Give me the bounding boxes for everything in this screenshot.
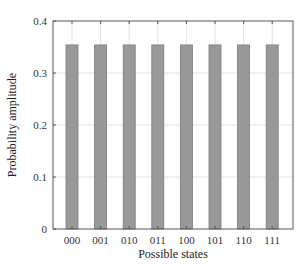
y-tick-label: 0.3 (33, 67, 47, 79)
x-tick-label: 000 (64, 234, 81, 246)
grid-lines (53, 21, 293, 229)
bar-011 (152, 45, 164, 229)
y-tick-label: 0.2 (33, 119, 47, 131)
bar-100 (180, 45, 192, 229)
y-tick-label: 0.1 (33, 171, 47, 183)
y-tick-label: 0.4 (33, 15, 47, 27)
x-tick-label: 101 (207, 234, 224, 246)
x-tick-label: 100 (178, 234, 195, 246)
bar-101 (209, 45, 221, 229)
bar-001 (95, 45, 107, 229)
x-tick-label: 010 (121, 234, 138, 246)
x-tick-label: 011 (150, 234, 166, 246)
bar-000 (66, 45, 78, 229)
bar-010 (123, 45, 135, 229)
x-tick-label: 001 (92, 234, 109, 246)
bar-110 (238, 45, 250, 229)
y-tick-label: 0 (42, 223, 48, 235)
x-axis-label: Possible states (138, 247, 208, 261)
bar-chart: 00.10.20.30.4 000001010011100101110111 P… (0, 0, 305, 269)
x-tick-label: 111 (264, 234, 280, 246)
y-axis-label: Probability amplitude (5, 73, 19, 177)
x-tick-label: 110 (236, 234, 253, 246)
bar-111 (266, 45, 278, 229)
